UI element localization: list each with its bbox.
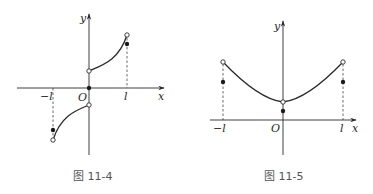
point-origin-filled — [87, 86, 91, 90]
point-open-min — [281, 100, 285, 104]
y-axis-label: y — [273, 20, 281, 33]
origin-label: O — [78, 91, 87, 104]
figure-11-5: y x O −l l 图 11-5 — [210, 20, 359, 183]
x-axis-label: x — [352, 122, 359, 135]
neg-l-label: −l — [213, 122, 226, 135]
origin-label: O — [271, 122, 280, 135]
point-filled-right — [125, 42, 129, 46]
pos-l-label: l — [340, 122, 344, 135]
point-open-left-end — [221, 60, 225, 64]
neg-l-label: −l — [40, 90, 53, 103]
point-filled-center — [281, 109, 285, 113]
figures-canvas: y x O −l l 图 11-4 y x O −l l — [0, 0, 373, 194]
curve-left-branch — [53, 105, 89, 140]
point-filled-left — [51, 128, 55, 132]
figure-caption: 图 11-5 — [264, 170, 303, 183]
point-filled-right — [341, 80, 345, 84]
y-axis-label: y — [79, 12, 87, 25]
point-open-right-end — [341, 60, 345, 64]
x-axis-label: x — [158, 90, 165, 103]
point-open-lower — [87, 103, 91, 107]
pos-l-label: l — [124, 90, 128, 103]
curve-right-branch — [89, 35, 127, 71]
point-open-right-end — [125, 33, 129, 37]
figure-caption: 图 11-4 — [73, 170, 112, 183]
figure-11-4: y x O −l l 图 11-4 — [17, 12, 165, 183]
point-filled-left — [221, 80, 225, 84]
point-open-upper — [87, 69, 91, 73]
point-open-left-end — [51, 138, 55, 142]
